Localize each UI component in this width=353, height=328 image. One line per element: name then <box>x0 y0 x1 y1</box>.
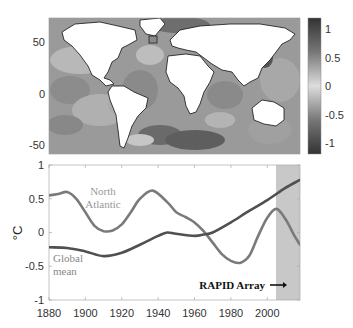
global-mean-label: mean <box>53 265 77 277</box>
colorbar-tick: 0.5 <box>325 52 340 64</box>
ts-ytick: 0 <box>38 226 44 238</box>
ts-xtick: 1900 <box>73 307 97 319</box>
map-ytick: 0 <box>39 88 45 100</box>
ts-ytick: -1 <box>34 294 44 306</box>
figure: 50 0 -50 1 0.5 0 -0.5 -1 1 0.5 0 -0.5 -1… <box>0 0 353 328</box>
north-atlantic-label: North <box>90 185 116 197</box>
ts-xtick: 1920 <box>110 307 134 319</box>
colorbar-tick: 0 <box>325 80 331 92</box>
ts-ylabel: °C <box>10 226 25 241</box>
north-atlantic-box <box>149 36 157 43</box>
ts-ytick: 0.5 <box>29 193 44 205</box>
ts-xtick: 1880 <box>37 307 61 319</box>
map-ytick: 50 <box>33 36 45 48</box>
sst-map <box>47 17 300 154</box>
colorbar-tick: -1 <box>325 137 335 149</box>
north-atlantic-label: Atlantic <box>85 198 121 210</box>
rapid-array-label: RAPID Array <box>199 279 265 291</box>
ts-xtick: 1940 <box>146 307 170 319</box>
ts-xtick: 1980 <box>219 307 243 319</box>
colorbar-tick: 1 <box>325 23 331 35</box>
global-mean-label: Global <box>53 252 83 264</box>
colorbar <box>308 18 321 154</box>
global-mean-line <box>49 180 300 256</box>
map-ytick: -50 <box>29 139 45 151</box>
ts-ytick: -0.5 <box>25 260 44 272</box>
ts-xtick: 2000 <box>255 307 279 319</box>
ts-xtick: 1960 <box>182 307 206 319</box>
ts-ytick: 1 <box>38 159 44 171</box>
colorbar-tick: -0.5 <box>325 109 344 121</box>
